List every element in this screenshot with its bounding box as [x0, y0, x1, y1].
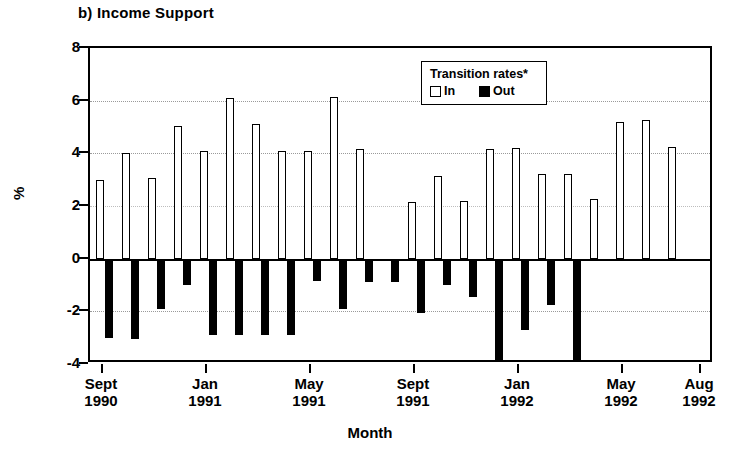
legend: Transition rates* In Out	[421, 61, 547, 105]
y-tick-label-0: 0	[52, 248, 80, 265]
x-tick-label-year: 1992	[604, 393, 637, 410]
x-tick-label-1: Jan1991	[188, 376, 221, 410]
x-tick-label-month: Jan	[504, 375, 530, 392]
legend-swatch-out-icon	[479, 86, 490, 97]
x-tick-mark-1	[205, 364, 207, 373]
legend-label-in: In	[444, 84, 455, 98]
y-tick-mark-2	[79, 204, 88, 206]
x-tick-label-month: Sept	[397, 375, 430, 392]
x-tick-label-0: Sept1990	[84, 376, 117, 410]
x-tick-mark-4	[517, 364, 519, 373]
y-tick-label-2: 2	[52, 196, 80, 213]
y-tick-mark--4	[79, 362, 88, 364]
x-tick-label-year: 1991	[188, 393, 221, 410]
x-tick-label-2: May1991	[292, 376, 325, 410]
y-tick-mark-0	[79, 257, 88, 259]
x-tick-label-year: 1991	[292, 393, 325, 410]
x-tick-mark-6	[699, 364, 701, 373]
y-tick-mark-4	[79, 151, 88, 153]
x-tick-label-year: 1991	[396, 393, 429, 410]
x-tick-mark-5	[621, 364, 623, 373]
y-tick-label-4: 4	[52, 143, 80, 160]
x-tick-mark-3	[413, 364, 415, 373]
x-tick-label-year: 1992	[682, 393, 715, 410]
x-tick-label-4: Jan1992	[500, 376, 533, 410]
x-tick-label-month: May	[606, 375, 635, 392]
x-tick-label-month: Jan	[192, 375, 218, 392]
legend-label-out: Out	[493, 84, 515, 98]
y-axis: 86420-2-4	[0, 46, 740, 362]
y-tick-label-6: 6	[52, 90, 80, 107]
legend-title: Transition rates*	[430, 67, 538, 81]
x-tick-mark-0	[101, 364, 103, 373]
x-tick-label-month: Sept	[85, 375, 118, 392]
x-tick-label-year: 1992	[500, 393, 533, 410]
y-tick-label--4: -4	[52, 354, 80, 371]
chart-root: b) Income Support % 86420-2-4 Sept1990Ja…	[0, 0, 740, 460]
legend-entry-in: In	[430, 84, 455, 98]
x-tick-label-year: 1990	[84, 393, 117, 410]
x-tick-label-5: May1992	[604, 376, 637, 410]
chart-title: b) Income Support	[78, 4, 214, 21]
x-tick-label-month: May	[294, 375, 323, 392]
y-tick-mark-8	[79, 46, 88, 48]
x-tick-label-6: Aug1992	[682, 376, 715, 410]
y-tick-mark-6	[79, 99, 88, 101]
x-tick-label-3: Sept1991	[396, 376, 429, 410]
legend-entry-out: Out	[479, 84, 515, 98]
y-tick-label--2: -2	[52, 301, 80, 318]
x-tick-mark-2	[309, 364, 311, 373]
y-tick-label-8: 8	[52, 38, 80, 55]
y-tick-mark--2	[79, 309, 88, 311]
legend-swatch-in-icon	[430, 86, 441, 97]
x-axis-title: Month	[0, 424, 740, 441]
x-tick-label-month: Aug	[684, 375, 713, 392]
